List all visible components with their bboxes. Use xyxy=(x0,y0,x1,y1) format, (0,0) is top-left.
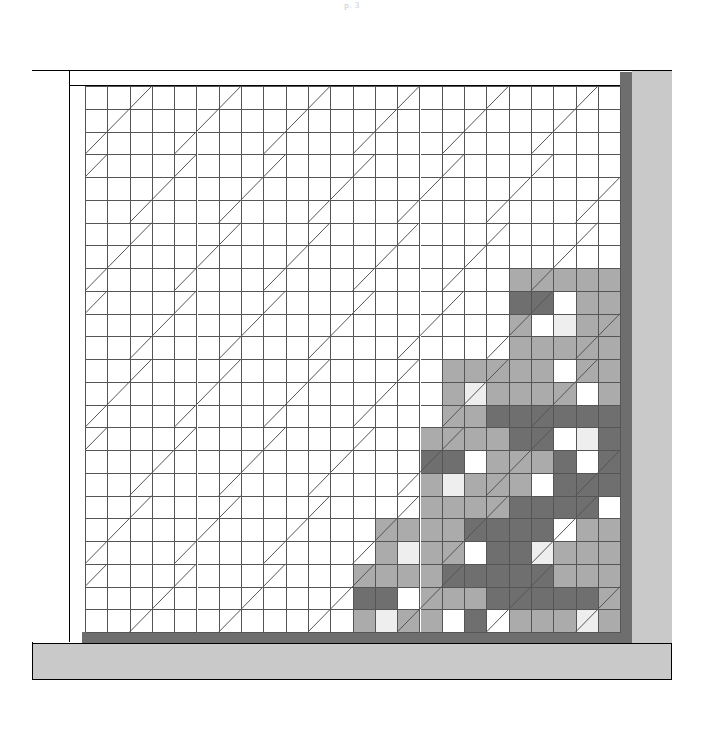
grid-cell xyxy=(443,315,465,338)
grid-cell xyxy=(108,246,130,269)
grid-cell xyxy=(131,428,153,451)
grid-cell xyxy=(443,406,465,429)
grid-cell xyxy=(510,269,532,292)
grid-cell xyxy=(443,87,465,110)
grid-cell xyxy=(554,87,576,110)
grid-cell xyxy=(354,292,376,315)
grid-cell xyxy=(309,178,331,201)
grid-cell xyxy=(354,87,376,110)
grid-cell xyxy=(198,269,220,292)
grid-cell xyxy=(131,360,153,383)
grid-cell xyxy=(465,269,487,292)
grid-cell xyxy=(220,337,242,360)
grid-cell xyxy=(198,110,220,133)
grid-cell xyxy=(465,588,487,611)
grid-cell xyxy=(264,406,286,429)
grid-cell xyxy=(376,87,398,110)
grid-cell xyxy=(421,542,443,565)
grid-cell xyxy=(443,497,465,520)
grid-cell xyxy=(398,360,420,383)
grid-cell xyxy=(510,360,532,383)
grid-cell xyxy=(131,497,153,520)
grid-cell xyxy=(309,565,331,588)
grid-cell xyxy=(287,133,309,156)
grid-cell xyxy=(465,155,487,178)
grid-cell xyxy=(86,588,108,611)
grid-cell xyxy=(376,133,398,156)
grid-cell xyxy=(287,474,309,497)
grid-cell xyxy=(242,155,264,178)
grid-cell xyxy=(309,315,331,338)
grid-cell xyxy=(153,201,175,224)
grid-cell xyxy=(465,292,487,315)
grid-cell xyxy=(175,497,197,520)
cell-grid xyxy=(85,86,620,632)
grid-cell xyxy=(108,201,130,224)
grid-cell xyxy=(443,383,465,406)
grid-cell xyxy=(331,246,353,269)
grid-cell xyxy=(577,360,599,383)
grid-cell xyxy=(287,224,309,247)
grid-cell xyxy=(220,474,242,497)
grid-cell xyxy=(264,201,286,224)
grid-cell xyxy=(465,224,487,247)
grid-cell xyxy=(487,565,509,588)
grid-cell xyxy=(465,474,487,497)
grid-cell xyxy=(198,133,220,156)
grid-cell xyxy=(398,201,420,224)
grid-cell xyxy=(354,201,376,224)
grid-cell xyxy=(487,383,509,406)
grid-cell xyxy=(242,224,264,247)
grid-cell xyxy=(577,542,599,565)
grid-cell xyxy=(510,201,532,224)
grid-cell xyxy=(153,178,175,201)
grid-cell xyxy=(398,178,420,201)
grid-cell xyxy=(220,588,242,611)
grid-cell xyxy=(264,315,286,338)
grid-cell xyxy=(398,224,420,247)
grid-cell xyxy=(242,269,264,292)
grid-cell xyxy=(153,383,175,406)
grid-cell xyxy=(421,451,443,474)
grid-cell xyxy=(465,178,487,201)
grid-cell xyxy=(376,565,398,588)
grid-cell xyxy=(443,474,465,497)
grid-cell xyxy=(421,406,443,429)
grid-cell xyxy=(510,610,532,633)
grid-cell xyxy=(398,246,420,269)
grid-cell xyxy=(309,201,331,224)
grid-cell xyxy=(554,360,576,383)
grid-cell xyxy=(421,133,443,156)
grid-cell xyxy=(287,406,309,429)
grid-cell xyxy=(443,201,465,224)
grid-cell xyxy=(287,383,309,406)
grid-cell xyxy=(577,246,599,269)
grid-cell xyxy=(287,315,309,338)
grid-cell xyxy=(599,383,621,406)
grid-cell xyxy=(198,451,220,474)
grid-cell xyxy=(264,292,286,315)
grid-cell xyxy=(532,383,554,406)
grid-cell xyxy=(198,360,220,383)
grid-cell xyxy=(577,201,599,224)
grid-cell xyxy=(153,588,175,611)
grid-cell xyxy=(309,610,331,633)
grid-cell xyxy=(86,315,108,338)
grid-cell xyxy=(220,497,242,520)
grid-cell xyxy=(242,542,264,565)
grid-cell xyxy=(287,610,309,633)
grid-cell xyxy=(487,451,509,474)
grid-cell xyxy=(554,474,576,497)
grid-cell xyxy=(487,246,509,269)
grid-cell xyxy=(264,610,286,633)
grid-cell xyxy=(331,428,353,451)
grid-cell xyxy=(175,292,197,315)
left-wall xyxy=(32,71,70,642)
grid-cell xyxy=(376,610,398,633)
grid-cell xyxy=(487,87,509,110)
grid-cell xyxy=(175,360,197,383)
grid-cell xyxy=(443,246,465,269)
grid-cell xyxy=(242,565,264,588)
grid-cell xyxy=(242,360,264,383)
grid-cell xyxy=(198,155,220,178)
